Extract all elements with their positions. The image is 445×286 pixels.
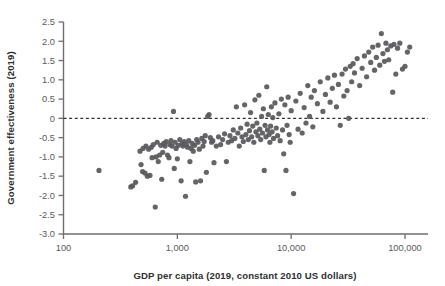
y-tick-label: -2.0 [39,191,55,201]
data-point [407,44,412,49]
axes [64,22,429,234]
data-point [318,79,323,84]
data-point [315,101,320,106]
data-point [243,132,248,137]
y-tick-label: 1.5 [42,56,55,66]
data-point [281,151,286,156]
data-point [183,194,188,199]
data-point [374,55,379,60]
data-point [307,114,312,119]
data-point [287,132,292,137]
data-point [268,123,273,128]
y-tick-label: -2.5 [39,210,55,220]
data-point [282,102,287,107]
x-tick-label: 1,000 [166,243,189,253]
data-point [156,159,161,164]
data-point [397,41,402,46]
data-point [284,123,289,128]
data-point [261,106,266,111]
data-point [172,166,177,171]
data-point [338,123,343,128]
data-point [330,86,335,91]
data-point [237,144,242,149]
data-point [232,136,237,141]
data-point [320,109,325,114]
data-point [231,127,236,132]
data-point [323,92,328,97]
data-point [244,122,249,127]
data-point [251,140,256,145]
data-point [262,123,267,128]
y-tick-label: 2.0 [42,37,55,47]
data-point [247,128,252,133]
data-point [390,90,395,95]
data-points [96,31,412,210]
data-point [346,116,351,121]
data-point [355,56,360,61]
x-tick-label: 100 [56,243,72,253]
data-point [204,170,209,175]
data-point [395,46,400,51]
x-tick-label: 100,000 [388,243,422,253]
data-point [391,42,396,47]
data-point [259,114,264,119]
data-point [159,177,164,182]
data-point [258,137,263,142]
data-point [138,162,143,167]
data-point [179,178,184,183]
y-tick-label: 1.0 [42,75,55,85]
data-point [283,168,288,173]
data-point [211,160,216,165]
data-point [276,111,281,116]
data-point [370,44,375,49]
data-point [256,93,261,98]
data-point [328,100,333,105]
y-tick-label: -3.0 [39,229,55,239]
data-point [206,112,211,117]
scatter-chart: -3.0-2.5-2.0-1.5-1.0-0.500.51.01.52.02.5… [0,0,445,286]
data-point [332,73,337,78]
data-point [272,100,277,105]
data-point [269,104,274,109]
data-point [254,120,259,125]
data-point [175,156,180,161]
data-point [293,98,298,103]
data-point [295,127,300,132]
y-tick-label: 0.5 [42,94,55,104]
data-point [275,133,280,138]
data-point [393,71,398,76]
data-point [203,133,208,138]
data-point [302,105,307,110]
data-point [153,204,158,209]
data-point [220,137,225,142]
data-point [364,74,369,79]
data-point [200,144,205,149]
data-point [250,123,255,128]
data-point [278,138,283,143]
data-point [360,66,365,71]
data-point [242,102,247,107]
data-point [96,168,101,173]
data-point [380,51,385,56]
x-tick-label: 10,000 [277,243,305,253]
data-point [298,91,303,96]
data-point [352,70,357,75]
data-point [252,97,257,102]
data-point [383,41,388,46]
data-point [300,130,305,135]
chart-canvas: -3.0-2.5-2.0-1.5-1.0-0.500.51.01.52.02.5… [0,0,445,286]
y-tick-label: 0 [50,114,55,124]
data-point [262,168,267,173]
data-point [288,140,293,145]
y-tick-label: -0.5 [39,133,55,143]
data-point [339,71,344,76]
data-point [270,129,275,134]
data-point [325,75,330,80]
data-point [368,60,373,65]
data-point [279,96,284,101]
data-point [133,180,138,185]
data-point [238,125,243,130]
y-tick-label: -1.0 [39,152,55,162]
data-point [289,108,294,113]
data-point [309,95,314,100]
